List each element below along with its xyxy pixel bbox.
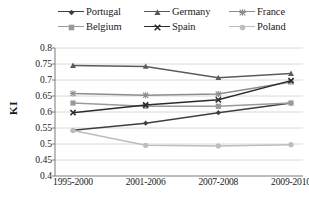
plot-area: KI 0.80.750.70.650.60.550.50.450.4 1995-… (0, 0, 309, 207)
data-point-portugal (216, 110, 221, 115)
data-point-portugal (143, 121, 148, 126)
series-line-portugal (73, 103, 291, 130)
data-point-poland (70, 128, 75, 133)
series-line-germany (73, 66, 291, 78)
x-tick-label: 1995-2000 (37, 176, 109, 187)
data-point-france (70, 90, 76, 96)
line-chart: PortugalGermanyFranceBelgiumSpainPoland … (0, 0, 309, 207)
data-point-belgium (70, 100, 75, 105)
x-tick-label: 2007-2008 (182, 176, 254, 187)
x-axis-ticks: 1995-20002001-20062007-20082009-2010 (55, 176, 303, 192)
data-point-belgium (216, 104, 221, 109)
data-point-belgium (288, 100, 293, 105)
data-point-poland (143, 143, 148, 148)
x-tick-label: 2009-2010 (255, 176, 309, 187)
data-point-france (143, 92, 149, 98)
data-point-poland (216, 143, 221, 148)
data-point-france (215, 91, 221, 97)
data-point-poland (288, 142, 293, 147)
x-tick-label: 2001-2006 (110, 176, 182, 187)
series-line-belgium (73, 103, 291, 106)
